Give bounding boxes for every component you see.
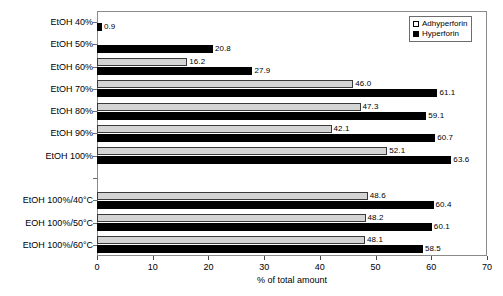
x-axis-tick-label: 60 [426, 262, 436, 272]
bar-value-label: 42.1 [334, 125, 350, 133]
y-axis-label: EtOH 100%/60°C [23, 240, 93, 250]
legend-item-hyperforin: Hyperforin [413, 29, 467, 39]
chart-legend: Adhyperforin Hyperforin [409, 16, 472, 42]
x-axis-title: % of total amount [97, 275, 487, 286]
x-axis-tick [153, 256, 154, 260]
chart-category-row: EtOH 90%42.160.7 [97, 122, 487, 144]
bar-hyperforin [97, 134, 435, 142]
y-axis-label: EtOH 50% [50, 39, 93, 49]
bar-hyperforin [97, 23, 102, 31]
bar-hyperforin [97, 45, 213, 53]
bar-chart: EtOH 40%0.9EtOH 50%20.8EtOH 60%16.227.9E… [0, 0, 503, 296]
bar-value-label: 48.1 [367, 236, 383, 244]
bar-value-label: 60.1 [434, 223, 450, 231]
bar-adhyperforin [97, 147, 387, 155]
chart-category-row: EtOH 100%52.163.6 [97, 145, 487, 167]
bar-value-label: 16.2 [189, 58, 205, 66]
bar-adhyperforin [97, 58, 187, 66]
x-axis-tick [487, 256, 488, 260]
bar-adhyperforin [97, 103, 361, 111]
bar-value-label: 48.2 [368, 214, 384, 222]
x-axis-tick [208, 256, 209, 260]
y-axis-label: EOH 100%/50°C [25, 218, 93, 228]
bar-value-label: 52.1 [389, 147, 405, 155]
bar-hyperforin [97, 89, 437, 97]
x-axis-tick-label: 0 [94, 262, 99, 272]
y-axis-label: EtOH 60% [50, 62, 93, 72]
bar-adhyperforin [97, 125, 332, 133]
x-axis-tick [97, 256, 98, 260]
y-axis-label: EtOH 40% [50, 17, 93, 27]
chart-category-row [97, 167, 487, 189]
bar-hyperforin [97, 112, 426, 120]
x-axis-tick-label: 50 [371, 262, 381, 272]
y-axis-label: EtOH 100%/40°C [23, 195, 93, 205]
y-axis-label: EtOH 80% [50, 106, 93, 116]
legend-swatch-open-square-icon [413, 21, 419, 27]
bar-value-label: 59.1 [428, 112, 444, 120]
chart-category-row: EtOH 60%16.227.9 [97, 56, 487, 78]
x-axis-tick [376, 256, 377, 260]
bar-value-label: 46.0 [355, 80, 371, 88]
x-axis-tick [320, 256, 321, 260]
x-axis-tick-label: 20 [203, 262, 213, 272]
bar-value-label: 61.1 [439, 89, 455, 97]
chart-category-row: EtOH 80%47.359.1 [97, 100, 487, 122]
legend-item-adhyperforin: Adhyperforin [413, 19, 467, 29]
y-axis-label: EtOH 70% [50, 84, 93, 94]
chart-category-row: EtOH 70%46.061.1 [97, 78, 487, 100]
bar-adhyperforin [97, 236, 365, 244]
bar-hyperforin [97, 245, 423, 253]
bar-value-label: 60.4 [436, 201, 452, 209]
bar-hyperforin [97, 156, 451, 164]
legend-label-adhyperforin: Adhyperforin [422, 19, 467, 29]
bar-value-label: 47.3 [363, 103, 379, 111]
bar-value-label: 63.6 [453, 156, 469, 164]
bar-hyperforin [97, 223, 432, 231]
x-axis-tick-label: 10 [148, 262, 158, 272]
bar-value-label: 20.8 [215, 45, 231, 53]
bar-value-label: 27.9 [254, 67, 270, 75]
x-axis-tick [431, 256, 432, 260]
bar-value-label: 58.5 [425, 245, 441, 253]
legend-swatch-filled-square-icon [413, 31, 419, 37]
legend-label-hyperforin: Hyperforin [422, 29, 459, 39]
chart-category-row: EtOH 100%/40°C48.660.4 [97, 189, 487, 211]
bar-value-label: 0.9 [104, 23, 115, 31]
y-axis-tick [93, 178, 97, 179]
bar-hyperforin [97, 67, 252, 75]
x-axis-tick-label: 30 [259, 262, 269, 272]
x-axis-tick-label: 40 [315, 262, 325, 272]
bar-value-label: 48.6 [370, 192, 386, 200]
bar-adhyperforin [97, 80, 353, 88]
y-axis-label: EtOH 100% [45, 151, 93, 161]
x-axis-tick [264, 256, 265, 260]
bar-adhyperforin [97, 214, 366, 222]
bar-adhyperforin [97, 192, 368, 200]
chart-category-row: EOH 100%/50°C48.260.1 [97, 211, 487, 233]
bar-value-label: 60.7 [437, 134, 453, 142]
y-axis-label: EtOH 90% [50, 128, 93, 138]
x-axis-tick-label: 70 [482, 262, 492, 272]
chart-category-row: EtOH 100%/60°C48.158.5 [97, 234, 487, 256]
bar-hyperforin [97, 201, 434, 209]
